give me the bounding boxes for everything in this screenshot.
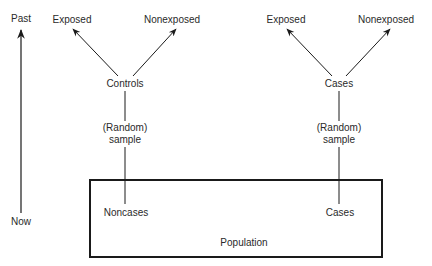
cases-sample-label: sample bbox=[323, 134, 355, 146]
controls-to-exposed-arrow bbox=[73, 29, 118, 76]
cases-label: Cases bbox=[325, 78, 353, 90]
controls-random-label: (Random) bbox=[103, 122, 147, 134]
controls-exposed-label: Exposed bbox=[53, 14, 92, 26]
cases-nonexposed-label: Nonexposed bbox=[358, 14, 414, 26]
noncases-label: Noncases bbox=[104, 207, 148, 219]
cases-to-nonexposed-arrow bbox=[346, 29, 390, 76]
population-label: Population bbox=[220, 237, 267, 249]
cases-to-exposed-arrow bbox=[287, 29, 332, 76]
now-label: Now bbox=[11, 216, 31, 228]
controls-nonexposed-label: Nonexposed bbox=[144, 14, 200, 26]
controls-to-nonexposed-arrow bbox=[133, 29, 176, 76]
controls-label: Controls bbox=[106, 78, 143, 90]
cases-random-label: (Random) bbox=[317, 122, 361, 134]
controls-sample-label: sample bbox=[109, 134, 141, 146]
cases-source-label: Cases bbox=[326, 207, 354, 219]
past-label: Past bbox=[11, 13, 31, 25]
cases-exposed-label: Exposed bbox=[267, 14, 306, 26]
